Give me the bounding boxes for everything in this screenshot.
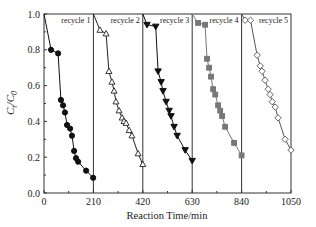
marker-diamond: [254, 52, 260, 58]
marker-triangle-up: [126, 127, 132, 132]
marker-circle: [48, 47, 53, 52]
panel-label-3: recycle 3: [160, 16, 189, 25]
y-tick-label: 1.0: [28, 9, 41, 20]
x-tick-label: 420: [135, 196, 150, 207]
marker-triangle-down: [168, 114, 174, 120]
series-recycle-2: [93, 14, 145, 167]
marker-triangle-up: [111, 88, 117, 93]
marker-circle: [72, 148, 77, 153]
marker-square: [196, 21, 201, 26]
chart-canvas: 0.00.20.40.60.81.0 02104206308401050 rec…: [0, 0, 316, 227]
y-tick-label: 0.2: [28, 152, 41, 163]
marker-triangle-up: [106, 68, 112, 73]
x-tick-label: 210: [86, 196, 101, 207]
panel-label-4: recycle 4: [210, 16, 239, 25]
marker-circle: [56, 51, 61, 56]
marker-circle: [91, 175, 96, 180]
marker-triangle-up: [109, 79, 115, 84]
y-axis-label: Ct/C0: [4, 91, 19, 115]
marker-diamond: [288, 147, 294, 153]
marker-triangle-up: [113, 99, 119, 104]
marker-triangle-up: [97, 27, 103, 32]
series-line: [143, 14, 192, 161]
marker-square: [209, 74, 214, 79]
y-tick-label: 0.4: [28, 116, 41, 127]
marker-diamond: [275, 115, 281, 121]
marker-triangle-down: [160, 89, 166, 95]
marker-diamond: [272, 104, 278, 110]
marker-triangle-up: [116, 107, 122, 112]
marker-square: [218, 108, 223, 113]
series-recycle-3: [143, 14, 196, 164]
marker-triangle-down: [158, 80, 164, 86]
panel-label-1: recycle 1: [61, 16, 90, 25]
marker-circle: [69, 133, 74, 138]
x-tick-label: 630: [185, 196, 200, 207]
marker-diamond: [282, 136, 288, 142]
marker-diamond: [247, 17, 253, 23]
marker-square: [203, 22, 208, 27]
x-axis-label: Reaction Time/min: [127, 210, 209, 221]
series-recycle-4: [192, 14, 244, 158]
y-tick-label: 0.6: [28, 80, 41, 91]
marker-triangle-down: [174, 133, 180, 139]
marker-square: [232, 140, 237, 145]
marker-diamond: [262, 77, 268, 83]
x-tick-label: 1050: [281, 196, 301, 207]
marker-circle: [58, 97, 63, 102]
marker-square: [207, 65, 212, 70]
marker-triangle-up: [103, 30, 109, 35]
marker-diamond: [269, 99, 275, 105]
marker-square: [211, 87, 216, 92]
series-line: [192, 14, 241, 155]
x-tick-label: 0: [42, 196, 47, 207]
marker-triangle-up: [129, 133, 135, 138]
marker-circle: [68, 126, 73, 131]
data-series: [44, 14, 294, 180]
chart-container: 0.00.20.40.60.81.0 02104206308401050 rec…: [0, 0, 316, 227]
x-tick-label: 840: [234, 196, 249, 207]
series-line: [44, 14, 93, 178]
marker-triangle-down: [163, 99, 169, 105]
marker-triangle-down: [189, 158, 195, 164]
series-recycle-1: [44, 14, 96, 180]
marker-triangle-down: [171, 124, 177, 130]
y-tick-label: 0.0: [28, 188, 41, 199]
marker-square: [205, 56, 210, 61]
marker-square: [220, 114, 225, 119]
panel-label-5: recycle 5: [259, 16, 288, 25]
y-tick-label: 0.8: [28, 44, 41, 55]
marker-square: [223, 124, 228, 129]
marker-circle: [62, 110, 67, 115]
marker-triangle-down: [155, 69, 161, 75]
series-line: [93, 14, 142, 164]
marker-triangle-up: [135, 150, 141, 155]
marker-square: [239, 153, 244, 158]
marker-triangle-down: [182, 148, 188, 154]
marker-circle: [76, 159, 81, 164]
panel-label-2: recycle 2: [111, 16, 140, 25]
marker-circle: [60, 103, 65, 108]
marker-triangle-down: [166, 108, 172, 114]
marker-square: [213, 92, 218, 97]
marker-triangle-down: [153, 24, 159, 30]
marker-square: [216, 103, 221, 108]
marker-triangle-up: [140, 161, 146, 166]
series-recycle-5: [242, 14, 295, 153]
marker-circle: [84, 168, 89, 173]
